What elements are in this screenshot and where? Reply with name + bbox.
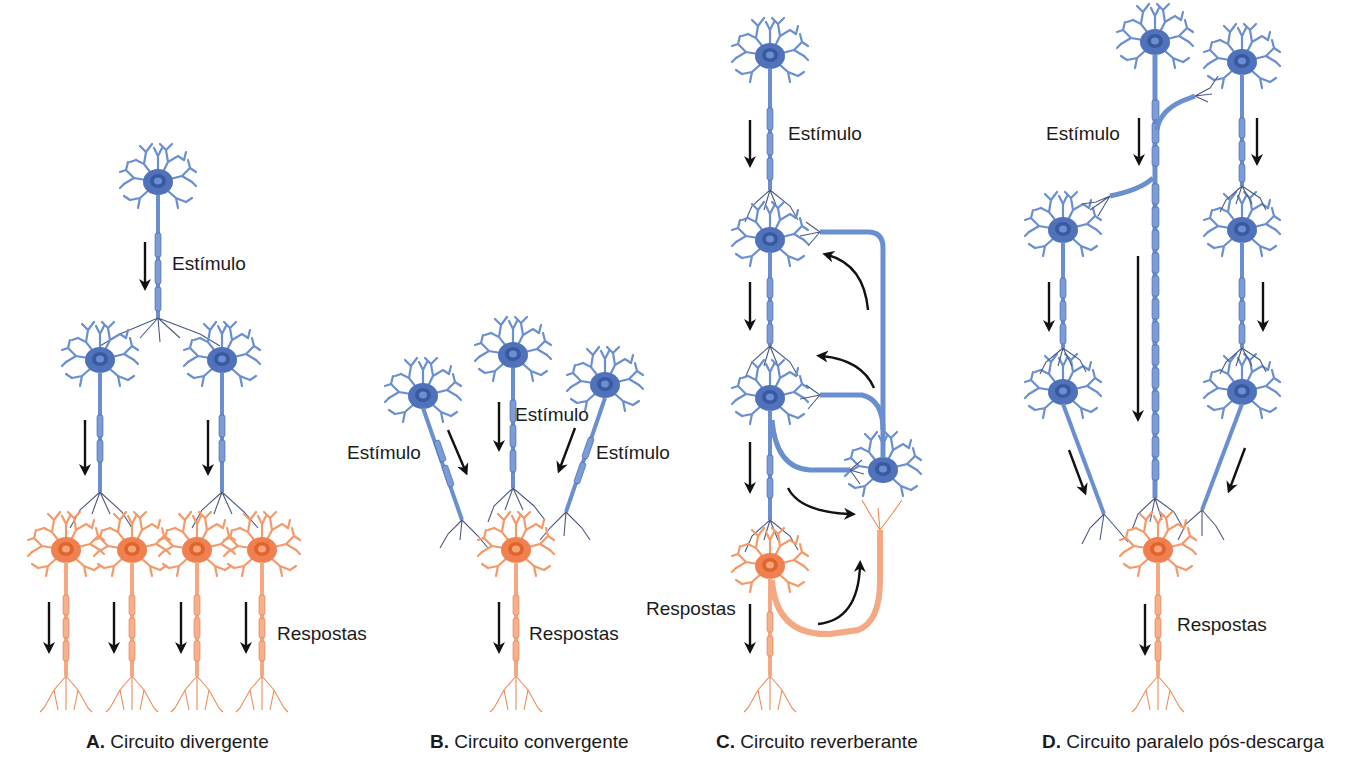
panel-c-title: Circuito reverberante: [740, 731, 917, 752]
panel-b-caption: B. Circuito convergente: [430, 732, 629, 751]
panel-b-stimulus-left-label: Estímulo: [347, 443, 421, 462]
panel-b-title: Circuito convergente: [454, 731, 628, 752]
panel-a-stimulus-label: Estímulo: [172, 254, 246, 273]
panel-d-title: Circuito paralelo pós-descarga: [1066, 731, 1324, 752]
panel-c-stimulus-label: Estímulo: [788, 124, 862, 143]
panel-d-stimulus-label: Estímulo: [1046, 124, 1120, 143]
panel-d-parallel-after-discharge-circuit: [1025, 4, 1280, 712]
panel-c-caption: C. Circuito reverberante: [716, 732, 918, 751]
panel-d-caption: D. Circuito paralelo pós-descarga: [1042, 732, 1324, 751]
panel-a-title: Circuito divergente: [110, 731, 268, 752]
panel-c-responses-label: Respostas: [646, 599, 736, 618]
panel-a-letter: A.: [86, 731, 105, 752]
panel-d-responses-label: Respostas: [1177, 615, 1267, 634]
panel-b-letter: B.: [430, 731, 449, 752]
panel-c-letter: C.: [716, 731, 735, 752]
signal-arrows: [49, 242, 246, 648]
output-neurons: [28, 512, 300, 712]
panel-a-caption: A. Circuito divergente: [86, 732, 269, 751]
panel-b-stimulus-center-label: Estímulo: [515, 405, 589, 424]
panel-a-responses-label: Respostas: [277, 624, 367, 643]
panel-b-responses-label: Respostas: [529, 624, 619, 643]
panel-b-convergent-circuit: [385, 317, 643, 712]
panel-b-stimulus-right-label: Estímulo: [596, 443, 670, 462]
neural-circuits-diagram: [0, 0, 1368, 770]
panel-a-divergent-circuit: [28, 144, 300, 712]
panel-d-letter: D.: [1042, 731, 1061, 752]
